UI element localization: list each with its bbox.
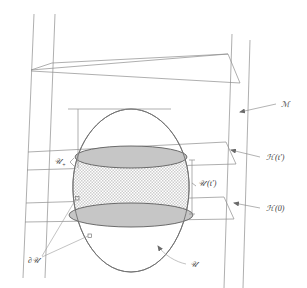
label-slice-zero-base: ℋ [266, 204, 275, 213]
label-region-u: 𝒰 [190, 260, 200, 269]
label-boundary-partial-u: ∂𝒰 [28, 256, 42, 265]
frame-rail-left-outer [23, 14, 34, 278]
label-region-u-of-t-prime: 𝒰 (t′) [198, 179, 217, 188]
label-region-u-of-t-prime-arg: (t′) [207, 179, 217, 188]
leader-ambient-manifold [240, 104, 276, 112]
frame-rail-right-outer [243, 40, 250, 288]
label-slice-zero-arg: (0) [275, 204, 285, 213]
u-of-t-prime-measure [189, 160, 196, 214]
slab-zero-right-connector [224, 197, 234, 219]
frame-rail-left-inner [45, 14, 55, 278]
label-slice-t-prime-base: ℋ [266, 153, 275, 162]
top-slab-back-edge [31, 54, 228, 70]
label-ambient-manifold: ℳ [281, 100, 291, 109]
u-tprime-bracket [192, 183, 196, 186]
leader-to-boundary-lower [42, 236, 88, 257]
boundary-marker-lower [88, 234, 92, 238]
label-slice-zero: ℋ (0) [266, 204, 285, 213]
top-slab-front-edge [31, 71, 240, 83]
label-slice-t-prime-arg: (t′) [275, 153, 285, 162]
label-slice-t-prime: ℋ (t′) [266, 153, 285, 162]
label-region-u-plus-subscript: + [62, 162, 66, 168]
frame-rail-right-inner [224, 34, 232, 288]
figure-root: ℳ ℋ (t′) ℋ (0) 𝒰 + 𝒰 (t′) ∂𝒰 𝒰 [0, 0, 307, 288]
leader-region-u [158, 246, 186, 264]
cross-section-ellipse-t-prime [75, 146, 187, 168]
leader-slice-t-prime [231, 150, 260, 157]
mathematical-diagram: ℳ ℋ (t′) ℋ (0) 𝒰 + 𝒰 (t′) ∂𝒰 𝒰 [0, 0, 307, 288]
label-region-u-plus: 𝒰 + [54, 157, 66, 168]
cross-section-ellipse-zero [69, 203, 193, 227]
top-slab-left-back [52, 54, 228, 63]
leader-slice-zero [234, 203, 260, 208]
top-slab-right-edge [228, 54, 240, 83]
u-plus-bracket [70, 158, 74, 166]
slab-tprime-right-connector [226, 142, 236, 164]
top-slab [31, 54, 240, 83]
